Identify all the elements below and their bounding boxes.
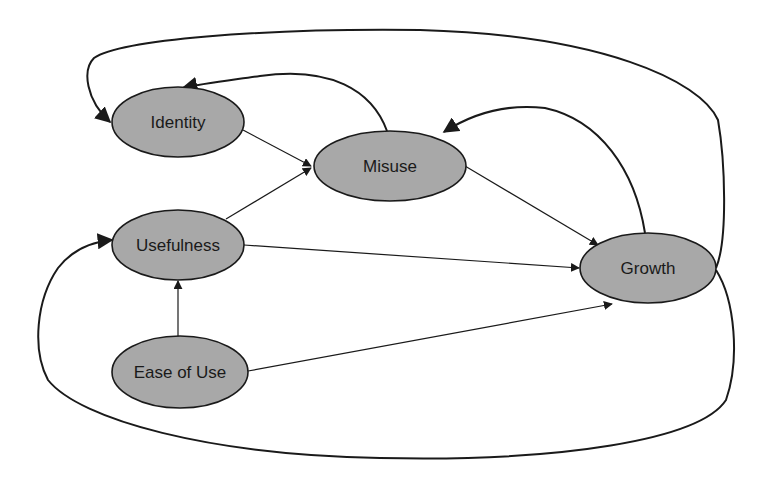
edge-identity-to-misuse [243,130,311,166]
causal-diagram: Identity Misuse Usefulness Growth Ease o… [0,0,768,478]
node-misuse-label: Misuse [363,157,417,176]
node-misuse[interactable]: Misuse [314,131,466,201]
node-usefulness-label: Usefulness [136,236,220,255]
node-ease-of-use[interactable]: Ease of Use [112,336,248,408]
edge-misuse-to-growth [465,166,598,245]
edge-usefulness-to-growth [244,245,579,268]
node-growth-label: Growth [621,259,676,278]
edge-usefulness-to-misuse [226,168,311,219]
node-ease-of-use-label: Ease of Use [134,363,227,382]
node-usefulness[interactable]: Usefulness [112,210,244,280]
edge-ease-of-use-to-growth [248,304,612,371]
edge-growth-to-misuse [444,107,645,233]
node-growth[interactable]: Growth [580,233,716,303]
node-identity[interactable]: Identity [112,87,244,157]
node-identity-label: Identity [151,113,206,132]
